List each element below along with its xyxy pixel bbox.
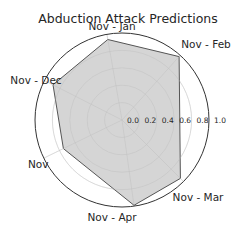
radial-tick-label: 0.0 — [127, 116, 139, 125]
radar-chart: Abduction Attack Predictions 0.00.20.40.… — [0, 0, 241, 236]
radial-tick-label: 0.8 — [197, 116, 209, 125]
axis-label: Nov - Jan — [88, 20, 135, 32]
axis-label: Nov - Mar — [173, 191, 224, 203]
radial-tick-label: 0.2 — [144, 116, 156, 125]
axis-label: Nov - Dec — [10, 74, 62, 86]
axis-label: Nov - Feb — [181, 38, 231, 50]
radial-tick-label: 1.0 — [214, 116, 226, 125]
radial-tick-label: 0.4 — [162, 116, 174, 125]
axis-label: Nov - Apr — [87, 211, 137, 223]
radial-tick-label: 0.6 — [179, 116, 191, 125]
axis-label: Nov — [28, 158, 49, 170]
